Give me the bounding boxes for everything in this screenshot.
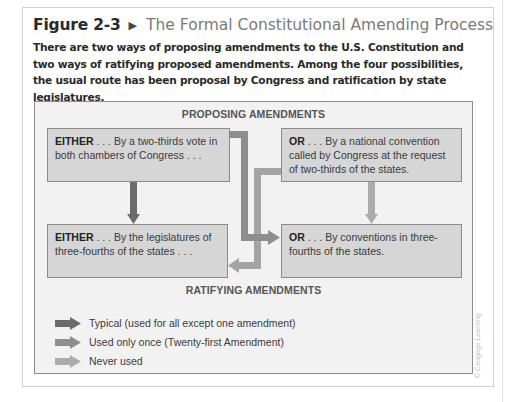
- legend-label: Used only once (Twenty-first Amendment): [89, 336, 284, 348]
- arrow-never-used-cross: [228, 168, 281, 273]
- box-lead: EITHER: [55, 135, 94, 147]
- box-state-legislatures: EITHER . . . By the legislatures of thre…: [47, 224, 228, 278]
- arrow-right-icon: [55, 355, 81, 368]
- figure-number: Figure 2-3: [33, 16, 121, 34]
- box-text: . . . By a national convention called by…: [289, 135, 445, 175]
- legend-item-once: Used only once (Twenty-first Amendment): [55, 334, 284, 350]
- legend-item-never: Never used: [55, 353, 143, 369]
- triangle-right-icon: ▶: [129, 19, 137, 32]
- arrow-right-icon: [55, 336, 81, 349]
- legend-label: Never used: [89, 355, 143, 367]
- box-congress-two-thirds: EITHER . . . By a two-thirds vote in bot…: [47, 128, 230, 182]
- page-edge-rule: [502, 0, 503, 402]
- copyright-credit: © Cengage Learning: [474, 313, 481, 378]
- figure-caption: There are two ways of proposing amendmen…: [33, 39, 478, 105]
- box-national-convention: OR . . . By a national convention called…: [281, 128, 462, 182]
- ratifying-label: RATIFYING AMENDMENTS: [35, 284, 472, 296]
- box-text: . . . By conventions in three-fourths of…: [289, 231, 438, 257]
- arrow-never-used: [365, 182, 378, 224]
- arrow-right-icon: [55, 317, 81, 330]
- figure-title: Figure 2-3▶The Formal Constitutional Ame…: [33, 16, 493, 34]
- figure-name: The Formal Constitutional Amending Proce…: [146, 16, 493, 34]
- box-state-conventions: OR . . . By conventions in three-fourths…: [281, 224, 462, 278]
- legend-label: Typical (used for all except one amendme…: [89, 317, 296, 329]
- arrow-typical: [127, 182, 140, 224]
- box-lead: OR: [289, 231, 305, 243]
- legend-item-typical: Typical (used for all except one amendme…: [55, 315, 296, 331]
- box-lead: EITHER: [55, 231, 94, 243]
- box-lead: OR: [289, 135, 305, 147]
